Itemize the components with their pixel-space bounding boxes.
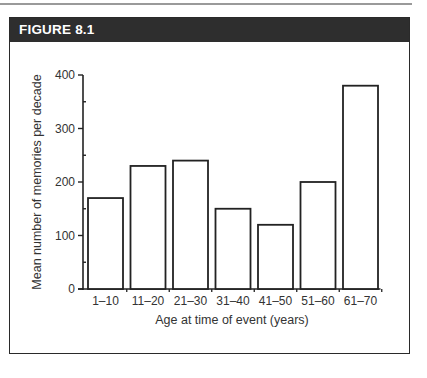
y-tick-label: 300 [55, 122, 75, 136]
x-tick-label: 11–20 [132, 294, 165, 308]
x-axis-title: Age at time of event (years) [155, 313, 309, 327]
bar-1-10 [88, 198, 123, 289]
bar-11-20 [131, 166, 166, 289]
x-tick-label: 51–60 [301, 294, 335, 308]
y-tick-label: 0 [68, 282, 75, 296]
y-tick-label: 200 [55, 175, 75, 189]
x-tick-label: 41–50 [259, 294, 293, 308]
bar-41-50 [258, 225, 293, 289]
y-axis-title: Mean number of memories per decade [30, 74, 44, 289]
x-tick-label: 61–70 [344, 294, 378, 308]
bar-51-60 [301, 182, 336, 289]
x-tick-label: 1–10 [92, 294, 119, 308]
bar-chart: 01002003004001–1011–2021–3031–4041–5051–… [0, 0, 427, 378]
y-tick-label: 400 [55, 68, 75, 82]
bar-61-70 [343, 86, 378, 289]
bar-31-40 [216, 209, 251, 289]
x-tick-label: 21–30 [174, 294, 208, 308]
y-tick-label: 100 [55, 229, 75, 243]
bar-21-30 [173, 161, 208, 289]
x-tick-label: 31–40 [216, 294, 250, 308]
